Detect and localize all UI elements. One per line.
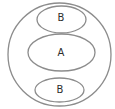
label-top-b: B bbox=[58, 12, 65, 23]
label-bottom-b: B bbox=[57, 84, 64, 95]
region-middle-a: A bbox=[28, 34, 95, 71]
nested-set-diagram: B A B bbox=[0, 0, 115, 109]
region-bottom-b: B bbox=[35, 78, 84, 102]
region-top-b: B bbox=[37, 6, 86, 33]
label-middle-a: A bbox=[58, 47, 65, 58]
